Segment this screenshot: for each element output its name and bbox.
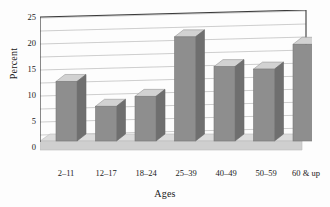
bars — [56, 30, 312, 141]
y-tick-label: 25 — [14, 13, 36, 21]
bar-side-face — [275, 62, 284, 141]
bar-front-face — [293, 44, 312, 141]
bar-front-face — [254, 69, 275, 141]
x-tick-label: 40–49 — [215, 168, 236, 178]
bar-side-face — [117, 99, 126, 141]
bar — [96, 99, 126, 141]
bar-front-face — [214, 67, 235, 141]
y-axis-tick-labels: 25 20 15 10 5 0 — [14, 0, 36, 207]
bar — [175, 30, 205, 141]
bar — [56, 74, 86, 141]
x-tick-label: 25–39 — [175, 168, 196, 178]
bar — [135, 89, 165, 141]
bar — [293, 37, 312, 141]
x-tick-label: 18–24 — [135, 168, 156, 178]
bar-side-face — [77, 74, 86, 141]
bar-front-face — [135, 96, 156, 141]
x-tick-label: 60 & up — [292, 168, 320, 178]
bar-chart: Percent 25 20 15 10 5 0 — [0, 0, 330, 207]
bar-side-face — [196, 30, 205, 141]
y-tick-label: 15 — [14, 65, 36, 73]
bar — [254, 62, 284, 141]
plot-area — [40, 10, 312, 150]
y-tick-label: 0 — [14, 143, 36, 151]
bar-front-face — [175, 37, 196, 141]
bar — [214, 60, 244, 141]
chart-canvas — [40, 10, 312, 175]
bar-front-face — [96, 106, 117, 141]
bar-top-face — [293, 37, 312, 44]
y-tick-label: 10 — [14, 91, 36, 99]
x-axis-tick-labels: 2–11 12–17 18–24 25–39 40–49 50–59 60 & … — [34, 168, 324, 182]
x-tick-label: 12–17 — [95, 168, 116, 178]
x-tick-label: 50–59 — [255, 168, 276, 178]
bar-front-face — [56, 81, 77, 141]
x-axis-title: Ages — [0, 188, 330, 199]
y-tick-label: 20 — [14, 39, 36, 47]
bar-side-face — [156, 89, 165, 141]
x-tick-label: 2–11 — [58, 168, 75, 178]
y-tick-label: 5 — [14, 117, 36, 125]
bar-side-face — [235, 60, 244, 141]
